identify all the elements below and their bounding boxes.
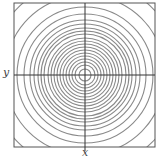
y-axis-label: y [3,66,9,79]
contour-ring [5,0,160,155]
x-axis-label: x [82,146,88,159]
contour-plot [0,0,160,159]
contour-rings [0,0,160,159]
